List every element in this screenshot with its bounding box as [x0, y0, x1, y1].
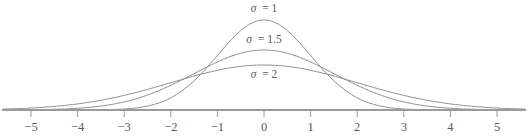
- x-axis-ticks: [31, 111, 497, 117]
- series-label-sigma-1: σ = 1: [251, 2, 278, 14]
- series-label-sigma-2: σ = 2: [251, 68, 278, 80]
- tick-label-1: −4: [71, 120, 85, 134]
- tick-label-2: −3: [118, 120, 131, 134]
- tick-label-0: −5: [24, 120, 37, 134]
- sigma-value: 1: [272, 2, 278, 14]
- equals-symbol: =: [259, 2, 271, 14]
- x-axis-tick-labels: −5−4−3−2−1012345: [24, 120, 500, 134]
- tick-label-9: 4: [447, 120, 454, 134]
- equals-symbol: =: [259, 68, 271, 80]
- series-label-sigma-1-5: σ = 1.5: [246, 33, 282, 45]
- tick-label-6: 1: [307, 120, 313, 134]
- sigma-value: 2: [272, 68, 278, 80]
- sigma-symbol: σ: [251, 68, 258, 80]
- normal-distribution-chart: −5−4−3−2−1012345 σ = 1σ = 1.5σ = 2: [0, 0, 528, 137]
- series-labels: σ = 1σ = 1.5σ = 2: [246, 2, 282, 80]
- tick-label-10: 5: [494, 120, 500, 134]
- plot-area: −5−4−3−2−1012345 σ = 1σ = 1.5σ = 2: [0, 0, 528, 137]
- tick-label-8: 3: [401, 120, 407, 134]
- equals-symbol: =: [255, 33, 267, 45]
- tick-label-5: 0: [261, 120, 267, 134]
- tick-label-4: −1: [211, 120, 224, 134]
- sigma-symbol: σ: [246, 33, 253, 45]
- tick-label-7: 2: [354, 120, 360, 134]
- sigma-symbol: σ: [251, 2, 258, 14]
- tick-label-3: −2: [164, 120, 177, 134]
- sigma-value: 1.5: [267, 33, 282, 45]
